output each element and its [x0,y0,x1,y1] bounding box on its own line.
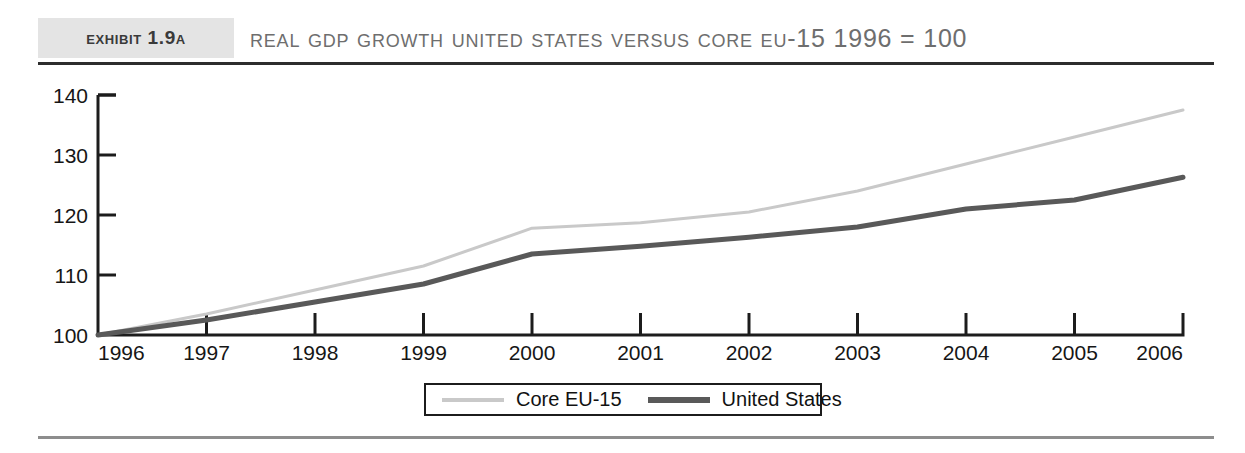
series-line-core-eu-15 [98,110,1183,335]
chart-area: 100110120130140 199619971998199920002001… [0,70,1245,370]
x-axis-tick-label: 1997 [183,341,230,364]
legend-item-united-states: United States [648,388,842,411]
legend-item-core-eu-15: Core EU-15 [442,388,622,411]
x-axis-tick-label: 2004 [943,341,990,364]
series-line-united-states [98,177,1183,335]
chart-series [98,110,1183,335]
header-divider [38,62,1214,65]
y-axis-tick-label: 110 [55,264,88,287]
y-axis-ticks: 100110120130140 [53,84,116,347]
footer-divider [38,436,1214,439]
line-chart: 100110120130140 199619971998199920002001… [0,70,1245,370]
line-swatch-dark-icon [648,397,710,403]
chart-legend: Core EU-15 United States [424,383,822,416]
figure-header: Exhibit 1.9A Real GDP Growth United Stat… [0,18,1245,62]
x-axis-ticks: 1996199719981999200020012002200320042005… [98,313,1183,364]
x-axis-tick-label: 1996 [98,341,145,364]
x-axis-tick-label: 2005 [1051,341,1098,364]
x-axis-tick-label: 2002 [726,341,773,364]
exhibit-number-label: Exhibit 1.9A [86,27,186,49]
legend-label-united-states: United States [722,388,842,411]
x-axis-tick-label: 2001 [617,341,664,364]
y-axis-tick-label: 140 [53,84,88,107]
y-axis-tick-label: 130 [53,144,88,167]
figure-title: Real GDP Growth United States versus Cor… [250,20,967,56]
x-axis-tick-label: 2006 [1136,341,1183,364]
chart-axes [98,95,1183,335]
x-axis-tick-label: 1998 [292,341,339,364]
exhibit-number-badge: Exhibit 1.9A [38,18,234,58]
y-axis-tick-label: 120 [53,204,88,227]
exhibit-figure: Exhibit 1.9A Real GDP Growth United Stat… [0,0,1245,453]
x-axis-tick-label: 2000 [509,341,556,364]
x-axis-tick-label: 1999 [400,341,447,364]
line-swatch-light-icon [442,398,504,402]
x-axis-tick-label: 2003 [834,341,881,364]
y-axis-tick-label: 100 [53,324,88,347]
legend-label-core-eu-15: Core EU-15 [516,388,622,411]
